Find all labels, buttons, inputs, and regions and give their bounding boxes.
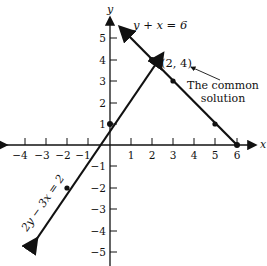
annotation-line-2: solution (201, 92, 246, 105)
svg-text:−2: −2 (91, 182, 106, 194)
y-axis-label: y (106, 3, 114, 16)
svg-text:3: 3 (99, 75, 106, 87)
svg-text:6: 6 (234, 149, 241, 161)
svg-text:−1: −1 (75, 149, 90, 161)
svg-text:4: 4 (99, 54, 106, 66)
x-axis-label: x (260, 138, 267, 151)
svg-text:5: 5 (212, 149, 219, 161)
svg-text:−3: −3 (34, 149, 49, 161)
svg-text:1: 1 (128, 149, 135, 161)
svg-text:−1: −1 (91, 160, 106, 172)
svg-text:2: 2 (149, 149, 156, 161)
svg-text:3: 3 (170, 149, 177, 161)
svg-text:−4: −4 (12, 149, 28, 161)
annotation-line-1: The common (187, 79, 259, 92)
svg-text:−2: −2 (55, 149, 70, 161)
svg-text:−3: −3 (91, 203, 106, 215)
svg-text:1: 1 (99, 118, 106, 130)
svg-text:5: 5 (99, 32, 106, 44)
graph: −4 −3 −2 −1 1 2 3 4 5 6 x 5 4 3 2 1 −1 −… (0, 0, 267, 266)
svg-text:−5: −5 (91, 246, 106, 258)
x-tick-labels: −4 −3 −2 −1 1 2 3 4 5 6 (12, 149, 240, 161)
svg-text:2: 2 (99, 97, 106, 109)
line1-label: y + x = 6 (132, 18, 187, 32)
svg-text:−4: −4 (91, 225, 107, 237)
intersection-label: (2, 4) (161, 56, 192, 70)
x-ticks (25, 138, 237, 145)
svg-text:4: 4 (191, 149, 198, 161)
